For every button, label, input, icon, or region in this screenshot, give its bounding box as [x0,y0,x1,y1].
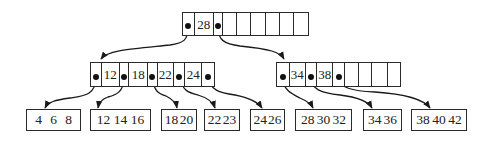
key-cell: 18 [129,63,148,86]
pointer-cell [148,63,158,86]
pointer-cell [277,63,290,86]
leaf-value: 28 [301,112,315,128]
empty-cell [372,63,388,86]
leaf-value: 4 [35,112,42,128]
empty-cell [251,13,266,35]
leaf-value: 26 [268,112,282,128]
arrow-24-right [209,77,262,108]
leaf-node-7: 34 36 [363,109,402,131]
pointer-dot-icon [176,74,182,80]
pointer-dot-icon [280,74,286,80]
leaf-value: 16 [131,112,145,128]
leaf-node-8: 38 40 42 [411,109,467,131]
pointer-dot-icon [336,74,342,80]
pointer-cell [91,63,102,86]
empty-cell [359,63,373,86]
empty-cell [294,13,308,35]
empty-cell [266,13,281,35]
empty-cell [280,13,294,35]
pointer-cell [202,63,214,86]
empty-cell [388,63,400,86]
leaf-value: 36 [384,112,398,128]
leaf-value: 32 [332,112,346,128]
leaf-value: 30 [317,112,331,128]
leaf-value: 34 [368,112,382,128]
arrow-12-left [45,77,96,108]
root-key-28: 28 [195,13,214,35]
key-cell: 24 [185,63,202,86]
leaf-value: 22 [208,112,222,128]
empty-cell [237,13,251,35]
leaf-node-2: 12 14 16 [90,109,151,131]
empty-cell [345,63,359,86]
pointer-cell [174,63,186,86]
leaf-node-1: 4 6 8 [26,109,81,131]
pointer-cell [120,63,130,86]
leaf-value: 18 [165,112,179,128]
pointer-cell [333,63,345,86]
pointer-dot-icon [93,74,99,80]
pointer-dot-icon [215,23,221,29]
root-pointer-0 [183,13,195,35]
key-cell: 12 [102,63,120,86]
pointer-dot-icon [205,74,211,80]
leaf-node-5: 24 26 [250,109,285,131]
pointer-cell [306,63,318,86]
key-cell: 38 [317,63,333,86]
leaf-node-3: 18 20 [161,109,197,131]
root-node: 28 [182,12,309,36]
leaf-node-4: 22 23 [204,109,240,131]
leaf-value: 24 [254,112,268,128]
leaf-value: 12 [97,112,111,128]
internal-node-right: 34 38 [276,62,401,87]
pointer-dot-icon [185,23,191,29]
arrow-root-to-left [101,27,188,59]
leaf-value: 40 [432,112,446,128]
leaf-value: 38 [416,112,430,128]
pointer-dot-icon [308,74,314,80]
leaf-node-6: 28 30 32 [295,109,352,131]
root-pointer-1 [214,13,224,35]
key-cell: 34 [290,63,306,86]
leaf-value: 20 [180,112,194,128]
empty-cell [223,13,237,35]
leaf-value: 42 [448,112,462,128]
leaf-value: 8 [65,112,72,128]
leaf-value: 6 [50,112,57,128]
pointer-dot-icon [149,74,155,80]
leaf-value: 23 [223,112,237,128]
b-tree-diagram: 28 12 18 22 24 34 38 4 6 8 12 [0,0,495,145]
pointer-dot-icon [121,74,127,80]
leaf-value: 14 [114,112,128,128]
key-cell: 22 [158,63,174,86]
internal-node-left: 12 18 22 24 [90,62,215,87]
